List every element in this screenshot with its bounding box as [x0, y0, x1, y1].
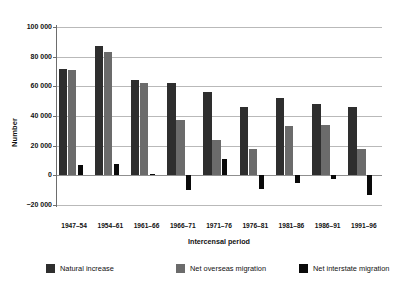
x-axis-tick-labels: 1947–541954–611961–661966–711971–761976–… [56, 222, 382, 234]
x-tick-label: 1976–81 [237, 222, 273, 229]
y-tick-label: 60 000 [6, 82, 52, 90]
bar[interactable] [140, 83, 149, 175]
bar-group [56, 27, 92, 205]
bar[interactable] [186, 175, 191, 190]
legend-item[interactable]: Net overseas migration [176, 264, 266, 273]
chart-legend: Natural increaseNet overseas migrationNe… [46, 264, 386, 278]
bar[interactable] [312, 104, 321, 175]
bar-group [310, 27, 346, 205]
x-tick-label: 1966–71 [165, 222, 201, 229]
bar[interactable] [367, 175, 372, 195]
bars-container [56, 27, 382, 205]
bar[interactable] [167, 83, 176, 175]
y-tickmark [53, 205, 56, 206]
bar[interactable] [212, 140, 221, 176]
legend-swatch-icon [176, 264, 185, 273]
bar[interactable] [249, 149, 258, 176]
bar[interactable] [348, 107, 357, 175]
y-tick-label: 80 000 [6, 53, 52, 61]
legend-label: Net overseas migration [190, 264, 266, 273]
x-tick-label: 1954–61 [92, 222, 128, 229]
gridline [56, 205, 382, 206]
x-tick-label: 1947–54 [56, 222, 92, 229]
bar-group [273, 27, 309, 205]
x-tick-label: 1961–66 [128, 222, 164, 229]
bar-group [237, 27, 273, 205]
bar[interactable] [104, 52, 113, 175]
bar-group [165, 27, 201, 205]
bar[interactable] [285, 126, 294, 175]
legend-label: Natural increase [60, 264, 114, 273]
bar[interactable] [276, 98, 285, 175]
x-axis-title: Intercensal period [56, 237, 382, 246]
y-tick-label: 20 000 [6, 142, 52, 150]
y-axis-tick-labels: 100 00080 00060 00040 00020 0000−20 000 [0, 0, 52, 294]
legend-item[interactable]: Natural increase [46, 264, 114, 273]
bar[interactable] [176, 120, 185, 175]
bar[interactable] [240, 107, 249, 175]
bar[interactable] [331, 175, 336, 179]
plot-area [56, 27, 382, 205]
x-tick-label: 1971–76 [201, 222, 237, 229]
bar[interactable] [222, 159, 227, 175]
bar-group [92, 27, 128, 205]
y-tick-label: −20 000 [6, 201, 52, 209]
bar[interactable] [68, 70, 77, 175]
bar-group [346, 27, 382, 205]
x-tick-label: 1981–86 [273, 222, 309, 229]
bar[interactable] [321, 125, 330, 175]
bar[interactable] [59, 69, 68, 176]
legend-swatch-icon [299, 264, 308, 273]
x-tick-label: 1986–91 [310, 222, 346, 229]
y-tick-label: 100 000 [6, 23, 52, 31]
y-tick-label: 40 000 [6, 112, 52, 120]
bar[interactable] [357, 149, 366, 176]
bar[interactable] [150, 174, 155, 175]
y-tick-label: 0 [6, 171, 52, 179]
bar[interactable] [78, 165, 83, 175]
bar[interactable] [203, 92, 212, 175]
bar[interactable] [114, 164, 119, 175]
bar-group [128, 27, 164, 205]
legend-item[interactable]: Net interstate migration [299, 264, 389, 273]
bar-group [201, 27, 237, 205]
x-tick-label: 1991–96 [346, 222, 382, 229]
legend-label: Net interstate migration [313, 264, 389, 273]
bar-chart: Number 100 00080 00060 00040 00020 0000−… [0, 0, 408, 294]
bar[interactable] [259, 175, 264, 189]
legend-swatch-icon [46, 264, 55, 273]
bar[interactable] [95, 46, 104, 175]
bar[interactable] [131, 80, 140, 175]
bar[interactable] [295, 175, 300, 183]
